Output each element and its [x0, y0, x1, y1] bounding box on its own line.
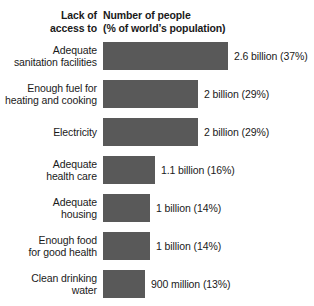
category-label-line: Electricity — [53, 126, 97, 139]
category-label: Adequatehousing — [0, 194, 97, 222]
value-label: 1.1 billion (16%) — [161, 156, 235, 184]
header-right-column: Number of people (% of world’s populatio… — [103, 9, 308, 35]
header-right-line-2: (% of world’s population) — [103, 22, 308, 35]
category-label: Clean drinkingwater — [0, 270, 97, 298]
bar — [103, 118, 198, 146]
bar — [103, 232, 150, 260]
category-label-line: Enough fuel for — [27, 82, 97, 95]
category-label-line: for good health — [28, 246, 97, 259]
bar — [103, 80, 198, 108]
header-left-line-1: Lack of — [0, 9, 97, 22]
bar — [103, 156, 155, 184]
chart-row: Clean drinkingwater900 million (13%) — [0, 270, 314, 306]
category-label-line: Adequate — [53, 44, 97, 57]
category-label-line: housing — [61, 208, 97, 221]
bar — [103, 194, 150, 222]
chart-row: Adequatesanitation facilities2.6 billion… — [0, 42, 314, 80]
bar — [103, 270, 145, 298]
category-label-line: health care — [46, 170, 97, 183]
chart-rows: Adequatesanitation facilities2.6 billion… — [0, 42, 314, 306]
category-label-line: water — [72, 284, 97, 297]
category-label-line: Enough food — [39, 234, 97, 247]
bar-chart: Lack of access to Number of people (% of… — [0, 0, 314, 306]
value-label: 2.6 billion (37%) — [234, 42, 308, 70]
category-label: Enough foodfor good health — [0, 232, 97, 260]
category-label-line: Adequate — [53, 196, 97, 209]
chart-row: Enough foodfor good health1 billion (14%… — [0, 232, 314, 270]
category-label: Enough fuel forheating and cooking — [0, 80, 97, 108]
header-left-column: Lack of access to — [0, 9, 97, 35]
header-left-line-2: access to — [0, 22, 97, 35]
chart-row: Adequatehousing1 billion (14%) — [0, 194, 314, 232]
category-label-line: heating and cooking — [5, 94, 97, 107]
category-label-line: Clean drinking — [31, 272, 97, 285]
chart-row: Adequatehealth care1.1 billion (16%) — [0, 156, 314, 194]
value-label: 900 million (13%) — [151, 270, 230, 298]
category-label: Electricity — [0, 118, 97, 146]
category-label: Adequatehealth care — [0, 156, 97, 184]
category-label-line: sanitation facilities — [14, 56, 97, 69]
chart-header: Lack of access to Number of people (% of… — [0, 9, 314, 39]
header-right-line-1: Number of people — [103, 9, 308, 22]
value-label: 1 billion (14%) — [156, 232, 221, 260]
chart-row: Electricity2 billion (29%) — [0, 118, 314, 156]
category-label: Adequatesanitation facilities — [0, 42, 97, 70]
value-label: 1 billion (14%) — [156, 194, 221, 222]
category-label-line: Adequate — [53, 158, 97, 171]
value-label: 2 billion (29%) — [204, 118, 269, 146]
chart-row: Enough fuel forheating and cooking2 bill… — [0, 80, 314, 118]
bar — [103, 42, 228, 70]
value-label: 2 billion (29%) — [204, 80, 269, 108]
